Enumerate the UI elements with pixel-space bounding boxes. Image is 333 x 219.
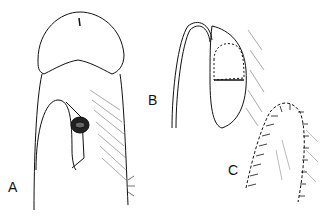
illustration-drawing [0,0,333,219]
panel-b-graft-upper [214,44,244,80]
panel-label-a: A [8,180,17,194]
panel-a-incision [36,100,76,170]
panel-label-b: B [148,93,157,107]
medical-illustration: A B C [0,0,333,219]
panel-label-c: C [228,163,238,177]
panel-b-flap [210,26,246,128]
panel-c-suture-line [246,103,304,202]
panel-a-glans [38,12,124,74]
panel-b-skin-edge [172,22,212,128]
